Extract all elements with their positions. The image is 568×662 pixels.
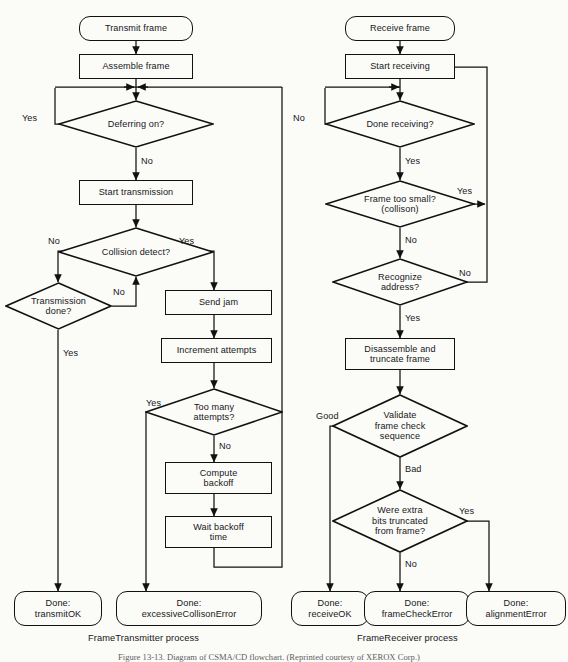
node-done-alignment-error: Done: alignmentError [466, 591, 566, 626]
node-collision-detect-label: Collision detect? [58, 227, 214, 277]
node-disassemble-truncate-frame: Disassemble and truncate frame [345, 338, 455, 370]
node-increment-attempts: Increment attempts [161, 338, 272, 363]
figure-caption: Figure 13-13. Diagram of CSMA/CD flowcha… [118, 652, 420, 662]
edgelabel-extra-bits-no: No [405, 559, 417, 569]
node-wait-backoff-time: Wait backoff time [165, 516, 272, 548]
node-send-jam: Send jam [165, 290, 272, 315]
node-frame-too-small-label: Frame too small? (collison) [325, 180, 475, 228]
edgelabel-transmission-done-yes: Yes [63, 348, 78, 358]
edgelabel-deferring-no: No [141, 156, 153, 166]
edgelabel-done-receiving-no: No [293, 113, 305, 123]
node-receive-frame: Receive frame [345, 16, 455, 41]
edge-toomany-yes [146, 412, 176, 591]
edgelabel-done-receiving-yes: Yes [405, 156, 420, 166]
node-transmission-done-label: Transmission done? [5, 282, 112, 330]
node-collision-detect: Collision detect? [58, 227, 214, 277]
edgelabel-validate-good: Good [316, 411, 339, 421]
node-too-many-attempts: Too many attempts? [145, 388, 283, 436]
node-validate-fcs-label: Validate frame check sequence [332, 394, 468, 458]
node-done-receive-ok: Done: receiveOK [291, 591, 369, 626]
node-done-receiving-label: Done receiving? [325, 100, 475, 148]
edgelabel-recognize-yes: Yes [405, 313, 420, 323]
edgelabel-transmission-done-no: No [113, 287, 125, 297]
edgelabel-extra-bits-yes: Yes [459, 506, 474, 516]
edgelabel-validate-bad: Bad [405, 464, 421, 474]
node-frame-too-small: Frame too small? (collison) [325, 180, 475, 228]
node-assemble-frame: Assemble frame [79, 54, 193, 79]
edgelabel-deferring-yes: Yes [22, 113, 37, 123]
edgelabel-collision-yes: Yes [179, 236, 194, 246]
caption-frametransmitter-process: FrameTransmitter process [88, 633, 199, 643]
node-recognize-address: Recognize address? [332, 258, 468, 306]
node-compute-backoff: Compute backoff [165, 462, 272, 494]
node-start-receiving: Start receiving [345, 54, 455, 79]
edgelabel-too-many-no: No [219, 441, 231, 451]
edge-wait-backoff-return [214, 87, 282, 567]
node-validate-frame-check-sequence: Validate frame check sequence [332, 394, 468, 458]
node-done-frame-check-error: Done: frameCheckError [364, 591, 470, 626]
node-done-transmit-ok: Done: transmitOK [14, 591, 102, 626]
node-transmit-frame: Transmit frame [79, 16, 193, 41]
node-start-transmission: Start transmission [79, 180, 193, 205]
edgelabel-too-many-yes: Yes [146, 398, 161, 408]
node-recognize-address-label: Recognize address? [332, 258, 468, 306]
edgelabel-collision-no: No [48, 236, 60, 246]
node-done-receiving: Done receiving? [325, 100, 475, 148]
node-deferring-on: Deferring on? [58, 100, 214, 148]
node-transmission-done: Transmission done? [5, 282, 112, 330]
node-too-many-attempts-label: Too many attempts? [145, 388, 283, 436]
edgelabel-frame-too-small-yes: Yes [457, 186, 472, 196]
edgelabel-frame-too-small-no: No [405, 235, 417, 245]
caption-framereceiver-process: FrameReceiver process [357, 633, 458, 643]
edgelabel-recognize-no: No [459, 268, 471, 278]
node-done-excessive-collison-error: Done: excessiveCollisonError [116, 591, 262, 626]
node-were-extra-bits-truncated: Were extra bits truncated from frame? [332, 489, 468, 553]
node-extra-bits-label: Were extra bits truncated from frame? [332, 489, 468, 553]
node-deferring-on-label: Deferring on? [58, 100, 214, 148]
